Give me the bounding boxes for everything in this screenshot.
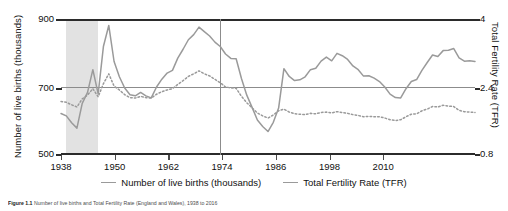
- figure-caption-label: Figure 1.1: [8, 200, 33, 206]
- series-live-births: [61, 25, 475, 131]
- y-axis-right-tick-4: 4: [480, 13, 508, 24]
- legend-label-tfr: Total Fertility Rate (TFR): [303, 177, 406, 188]
- y-axis-right-tick-2-4: 2.4: [480, 82, 508, 93]
- legend-swatch-solid-line-icon: [101, 182, 116, 183]
- x-axis-tick-1962: 1962: [146, 161, 190, 172]
- x-axis-tick-1974: 1974: [200, 161, 244, 172]
- y-axis-right-title: Total Fertility Rate (TFR): [490, 22, 501, 128]
- x-axis-tick-1986: 1986: [254, 161, 298, 172]
- x-axis-tick-1998: 1998: [308, 161, 352, 172]
- x-tick-mark-1986: [276, 155, 277, 160]
- x-tick-mark-1998: [330, 155, 331, 160]
- figure-caption: Figure 1.1 Number of live births and Tot…: [8, 200, 488, 206]
- chart-legend: Number of live births (thousands) Total …: [0, 177, 508, 188]
- y-axis-left-tick-900: 900: [20, 13, 54, 24]
- x-tick-mark-1938: [61, 155, 62, 160]
- y-axis-left-tick-500: 500: [20, 148, 54, 159]
- y-axis-right-tick-0-8: 0.8: [480, 148, 508, 159]
- y-axis-left-tick-700: 700: [20, 82, 54, 93]
- plot-area: [61, 19, 475, 155]
- x-axis-tick-1938: 1938: [39, 161, 83, 172]
- y-right-stub-2-4: [475, 88, 480, 90]
- figure-caption-text: Number of live births and Total Fertilit…: [34, 200, 217, 206]
- x-axis-tick-1950: 1950: [93, 161, 137, 172]
- legend-label-live-births: Number of live births (thousands): [121, 177, 261, 188]
- x-tick-mark-1962: [168, 155, 169, 160]
- legend-item-tfr: Total Fertility Rate (TFR): [283, 177, 406, 188]
- y-right-stub-0-8: [475, 154, 480, 156]
- legend-swatch-line-icon: [283, 182, 298, 183]
- x-tick-mark-1950: [115, 155, 116, 160]
- legend-item-live-births: Number of live births (thousands): [101, 177, 261, 188]
- y-right-stub-4: [475, 19, 480, 21]
- figure-live-births-tfr: Number of live births (thousands) Total …: [0, 0, 508, 211]
- x-tick-mark-2010: [383, 155, 384, 160]
- x-tick-mark-1974: [222, 155, 223, 160]
- series-layer: [61, 19, 475, 155]
- series-total-fertility-rate: [61, 71, 475, 121]
- x-axis-tick-2010: 2010: [361, 161, 405, 172]
